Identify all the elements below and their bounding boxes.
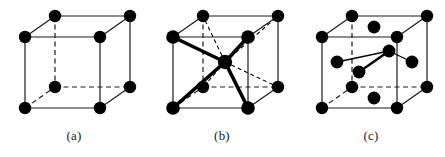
visible-edges-group [25,16,130,108]
atom-face-center-left[interactable] [331,56,344,69]
hidden-edges-group [25,16,130,108]
bond-center-to-front-bottom-right [225,62,248,108]
atom-corner-front-bottom-left[interactable] [166,101,180,115]
atom-corner-front-bottom-right[interactable] [241,101,255,115]
atom-corner-front-top-right[interactable] [241,30,255,44]
bold-bonds-group [173,37,248,108]
atom-face-center-back[interactable] [383,45,396,58]
panel-caption-a: (a) [0,128,148,144]
atom-corner-back-top-right[interactable] [421,10,433,22]
atom-corner-front-top-left[interactable] [166,30,180,44]
atom-corner-back-bottom-right[interactable] [421,81,433,93]
simple-cubic-cell-diagram [0,0,148,130]
atom-body-center-atom[interactable] [218,55,232,69]
hidden-bonds-group [203,16,278,87]
bond-center-to-front-top-left [173,37,225,62]
atom-corner-front-bottom-right[interactable] [94,102,106,114]
atom-corner-front-bottom-right[interactable] [391,102,403,114]
panel-caption-b: (b) [148,128,296,144]
bold-bonds-group [337,51,412,72]
atom-corner-front-bottom-left[interactable] [19,102,31,114]
atom-face-center-right[interactable] [406,56,419,69]
atom-corner-front-top-left[interactable] [19,31,31,43]
atom-corner-back-top-left[interactable] [346,10,358,22]
atoms-group [19,10,136,114]
atom-face-center-front[interactable] [353,66,366,79]
atom-corner-front-top-right[interactable] [94,31,106,43]
atom-corner-back-top-left[interactable] [49,10,61,22]
atom-corner-back-top-left[interactable] [197,10,209,22]
face-centered-cubic-cell-panel: (c) [297,0,445,157]
atom-corner-back-bottom-left[interactable] [49,81,61,93]
simple-cubic-cell-panel: (a) [0,0,148,157]
atom-corner-back-top-right[interactable] [272,10,284,22]
face-centered-cubic-cell-diagram [297,0,445,130]
atom-corner-front-bottom-left[interactable] [316,102,328,114]
panel-caption-c: (c) [297,128,445,144]
atom-corner-back-bottom-right[interactable] [124,81,136,93]
atom-corner-back-bottom-left[interactable] [197,81,209,93]
atom-corner-back-top-right[interactable] [124,10,136,22]
atom-corner-back-bottom-left[interactable] [346,81,358,93]
atom-corner-front-top-right[interactable] [391,31,403,43]
atom-corner-front-top-left[interactable] [316,31,328,43]
atom-face-center-top[interactable] [368,21,381,34]
atom-corner-back-bottom-right[interactable] [272,81,284,93]
body-centered-cubic-cell-panel: (b) [148,0,296,157]
atom-face-center-bottom[interactable] [368,92,381,105]
crystal-lattice-figure: (a)(b)(c) [0,0,445,157]
body-centered-cubic-cell-diagram [148,0,296,130]
